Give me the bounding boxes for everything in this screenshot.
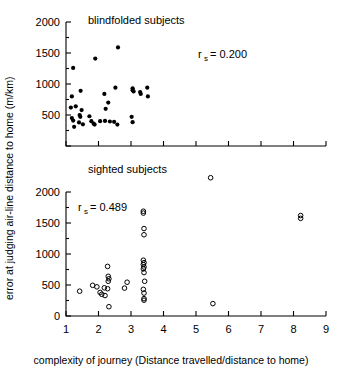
x-tick-label: 1 [63, 323, 69, 335]
data-point [113, 86, 117, 90]
x-tick-label: 6 [225, 323, 231, 335]
data-point [80, 108, 84, 112]
data-point [93, 123, 97, 127]
y-tick-label: 2000 [36, 186, 60, 198]
x-tick-label: 2 [95, 323, 101, 335]
data-point [108, 119, 112, 123]
y-tick-label: 1000 [36, 248, 60, 260]
y-tick-label: 500 [42, 279, 60, 291]
data-point [146, 94, 150, 98]
x-tick-label: 9 [323, 323, 329, 335]
data-point [74, 104, 78, 108]
x-tick-label: 7 [258, 323, 264, 335]
data-point [132, 89, 136, 93]
data-point [79, 89, 83, 93]
panel-title-sighted: sighted subjects [88, 163, 167, 175]
annotation-rs-value-2: = 0.489 [90, 201, 127, 213]
data-point [70, 94, 74, 98]
annotation-rs-symbol: r [198, 48, 202, 60]
data-point [103, 119, 107, 123]
x-tick-label: 8 [290, 323, 296, 335]
y-tick-label: 2000 [36, 16, 60, 28]
y-tick-label: 1500 [36, 217, 60, 229]
data-point [98, 119, 102, 123]
data-point [102, 92, 106, 96]
data-point [78, 115, 82, 119]
data-point [130, 115, 134, 119]
data-point [69, 105, 73, 109]
annotation-rs-subscript-2: s [84, 207, 88, 216]
figure-canvas: error at judging air-line distance to ho… [0, 0, 342, 372]
scatter-figure: error at judging air-line distance to ho… [0, 0, 342, 372]
x-tick-label: 3 [128, 323, 134, 335]
data-point [72, 125, 76, 129]
y-tick-label: 1500 [36, 47, 60, 59]
y-tick-label: 500 [42, 109, 60, 121]
data-point [71, 66, 75, 70]
data-point [139, 92, 143, 96]
annotation-rs-subscript: s [204, 54, 208, 63]
data-point [93, 56, 97, 60]
y-tick-label: 1000 [36, 78, 60, 90]
data-point [87, 114, 91, 118]
annotation-rs-value: = 0.200 [210, 48, 247, 60]
data-point [71, 118, 75, 122]
data-point [131, 120, 135, 124]
data-point [104, 107, 108, 111]
data-point [115, 123, 119, 127]
data-point [116, 45, 120, 49]
panel-title-blindfolded: blindfolded subjects [88, 14, 185, 26]
data-point [77, 120, 81, 124]
data-point [145, 86, 149, 90]
x-tick-label: 4 [160, 323, 166, 335]
x-tick-label: 5 [193, 323, 199, 335]
data-point [81, 122, 85, 126]
data-point [112, 120, 116, 124]
x-axis-title: complexity of journey (Distance travelle… [34, 354, 309, 366]
y-axis-title: error at judging air-line distance to ho… [3, 76, 15, 300]
data-point [106, 101, 110, 105]
y-tick-label: 0 [54, 310, 60, 322]
annotation-rs-symbol-2: r [78, 201, 82, 213]
